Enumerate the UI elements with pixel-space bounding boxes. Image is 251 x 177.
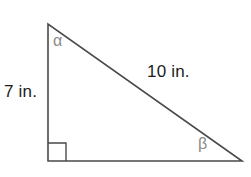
- triangle-outline: [48, 24, 242, 161]
- angle-alpha-label: α: [53, 33, 62, 49]
- triangle-drawing: [0, 0, 251, 177]
- vertical-leg-length-label: 7 in.: [4, 83, 37, 100]
- triangle-figure: 7 in. 10 in. α β: [0, 0, 251, 177]
- right-angle-marker-icon: [48, 143, 66, 161]
- hypotenuse-length-label: 10 in.: [147, 63, 190, 80]
- angle-beta-label: β: [198, 136, 207, 152]
